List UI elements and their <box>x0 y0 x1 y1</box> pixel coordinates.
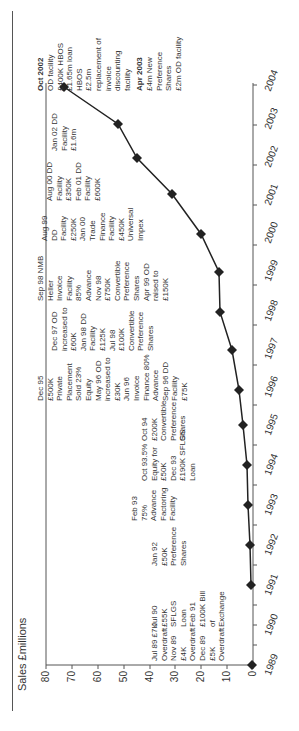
annotation-2000-01: Aug 00 DD Facility £350K Feb 01 DD Facil… <box>45 162 103 201</box>
point-1989 <box>247 660 257 670</box>
rotated-chart: Sales £millions 80 70 60 50 40 30 20 10 … <box>0 0 299 731</box>
annotation-apr-2003: £4m New Preference Shares £2m OD facilit… <box>145 37 183 91</box>
annotation-apr-2003-title: Apr 2003 <box>135 57 145 91</box>
annotation-1990: Jul 90 £55K SFLGS Loan Feb 91 £100K Bill… <box>150 591 227 627</box>
annotation-oct-2002-title: Oct 2002 <box>36 58 46 91</box>
annotation-1997-98: Dec 97 OD increased to £60K Jan 98 DD Fa… <box>50 307 156 351</box>
annotation-1989: Jul 89 £7K Overdraft Nov 89 £4K Overdraf… <box>150 623 227 661</box>
annotation-1998-99: Sep 98 NMB Heller Invoice Facility 85% A… <box>36 256 170 301</box>
annotation-1993a: Feb 93 75% Advance Factoring Facility <box>130 488 178 521</box>
annotation-1992: Jan 92 £50K Preference Shares <box>150 527 188 566</box>
annotation-2002: Jan 02 DD Facility £1.6m <box>50 113 79 151</box>
annotation-1994: Oct 94 £200K Convertible Preference Shar… <box>140 401 188 441</box>
annotation-oct-2002: OD facility £400K HBOS £1.65m loan HBOS … <box>46 38 132 91</box>
annotation-1999-00: Aug 99 DD Facility £250K Jan 00 Trade Fi… <box>40 208 146 241</box>
annotation-1995-96: Dec 95 £500K Private Placement Sold 23% … <box>36 354 190 401</box>
